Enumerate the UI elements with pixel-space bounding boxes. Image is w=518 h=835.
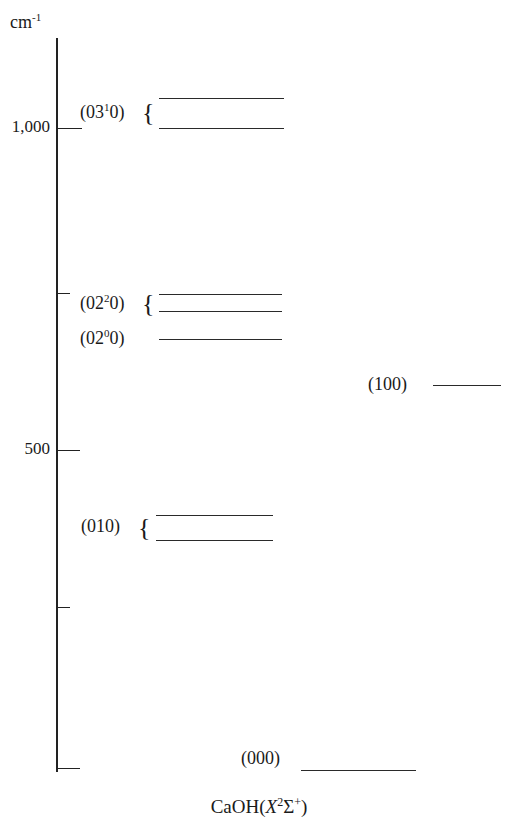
caption-close: ) [301,796,307,817]
unit-exponent: -1 [32,11,41,23]
level-000 [301,770,416,771]
tick-250 [56,607,70,608]
level-031-lower [159,128,284,129]
caption-term: Σ [283,796,294,817]
tick-0 [56,768,80,769]
level-022-upper [159,294,282,295]
level-label-022: (0220) [80,293,125,314]
brace-010: { [138,515,150,541]
level-022-lower [159,311,282,312]
level-100 [433,385,501,386]
label-part: (02 [80,293,104,313]
tick-label-1000: 1,000 [0,117,50,137]
y-axis-line [56,38,58,772]
level-031-upper [159,98,284,99]
level-label-020: (0200) [80,328,125,349]
y-axis-unit: cm-1 [10,12,41,33]
caption-sign: + [294,795,301,809]
label-part: (02 [80,328,104,348]
brace-022: { [142,291,154,317]
caption-molecule: CaOH( [211,796,266,817]
label-part: 0) [110,293,125,313]
diagram-caption: CaOH(X2Σ+) [0,796,518,818]
tick-500 [56,450,80,451]
level-label-010: (010) [81,516,120,537]
tick-1000 [56,128,82,129]
brace-031: { [142,100,154,126]
level-label-000: (000) [241,748,280,769]
tick-label-500: 500 [0,439,50,459]
label-part: (03 [80,102,104,122]
tick-750 [56,293,70,294]
level-label-100: (100) [368,374,407,395]
unit-base: cm [10,12,32,32]
level-010-lower [156,540,273,541]
level-020 [159,339,282,340]
caption-state: X [266,796,278,817]
level-label-031: (0310) [80,102,125,123]
label-part: 0) [110,102,125,122]
label-part: 0) [110,328,125,348]
level-010-upper [156,515,273,516]
